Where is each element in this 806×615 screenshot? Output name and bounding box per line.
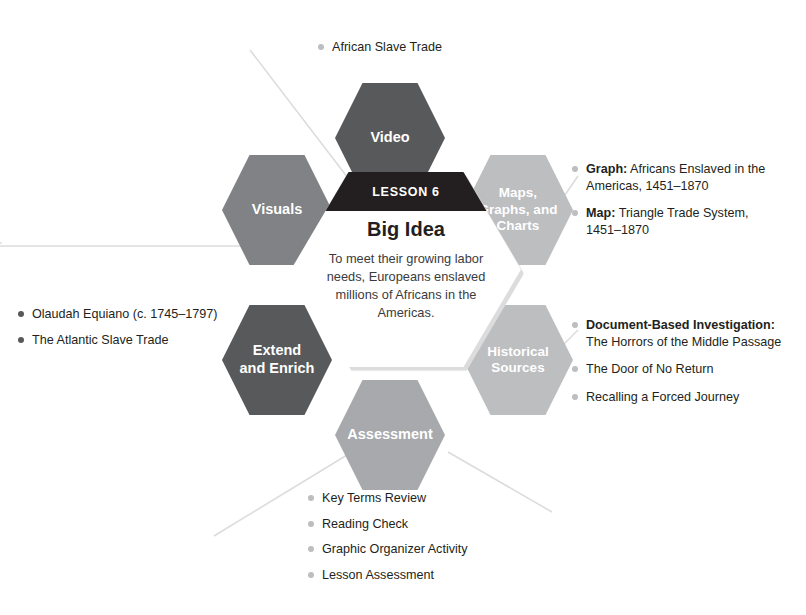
list-item-subtext: The Horrors of the Middle Passage bbox=[586, 334, 800, 351]
list-item-text: Africans Enslaved in the bbox=[627, 162, 765, 176]
list-item-text: Lesson Assessment bbox=[322, 568, 434, 582]
list-item[interactable]: Reading Check bbox=[308, 516, 548, 533]
big-idea-body: To meet their growing labor needs, Europ… bbox=[313, 250, 499, 323]
list-item-text: Triangle Trade System, bbox=[615, 206, 748, 220]
list-item-text: African Slave Trade bbox=[332, 40, 442, 54]
list-item-subtext: 1451–1870 bbox=[586, 222, 796, 239]
list-item-text: Recalling a Forced Journey bbox=[586, 390, 739, 404]
list-item-text: Olaudah Equiano (c. 1745–1797) bbox=[32, 307, 218, 321]
list-item[interactable]: Graphic Organizer Activity bbox=[308, 541, 548, 558]
list-historical-resources: Document-Based Investigation:The Horrors… bbox=[572, 317, 800, 417]
list-extend-resources: Olaudah Equiano (c. 1745–1797)The Atlant… bbox=[18, 306, 258, 357]
list-video-resources: African Slave Trade bbox=[318, 39, 548, 64]
lesson-banner: LESSON 6 bbox=[291, 172, 521, 211]
lesson-banner-label: LESSON 6 bbox=[372, 185, 439, 199]
big-idea-panel: LESSON 6 Big Idea To meet their growing … bbox=[291, 172, 521, 367]
list-item-strong: Graph: bbox=[586, 162, 627, 176]
list-item-text: The Door of No Return bbox=[586, 362, 713, 376]
list-item-text: Graphic Organizer Activity bbox=[322, 542, 468, 556]
list-maps-resources: Graph: Africans Enslaved in theAmericas,… bbox=[572, 161, 796, 250]
list-item-text: Key Terms Review bbox=[322, 491, 426, 505]
list-item-subtext: Americas, 1451–1870 bbox=[586, 178, 796, 195]
node-assessment[interactable]: Assessment bbox=[335, 380, 445, 490]
list-assessment-resources: Key Terms ReviewReading CheckGraphic Org… bbox=[308, 490, 548, 593]
node-assessment-label: Assessment bbox=[341, 426, 438, 444]
list-item-strong: Map: bbox=[586, 206, 615, 220]
list-item[interactable]: Recalling a Forced Journey bbox=[572, 389, 800, 406]
list-item[interactable]: Document-Based Investigation:The Horrors… bbox=[572, 317, 800, 350]
list-item-text: Reading Check bbox=[322, 517, 408, 531]
big-idea-title: Big Idea bbox=[291, 218, 521, 241]
list-item[interactable]: The Atlantic Slave Trade bbox=[18, 332, 258, 349]
list-item[interactable]: Graph: Africans Enslaved in theAmericas,… bbox=[572, 161, 796, 194]
list-item[interactable]: African Slave Trade bbox=[318, 39, 548, 56]
list-item[interactable]: Lesson Assessment bbox=[308, 567, 548, 584]
node-video-label: Video bbox=[364, 129, 415, 147]
list-item-strong: Document-Based Investigation: bbox=[586, 318, 775, 332]
lesson-overview-diagram: Video Visuals Maps, Graphs, and Charts E… bbox=[0, 0, 806, 615]
list-item[interactable]: Map: Triangle Trade System,1451–1870 bbox=[572, 205, 796, 238]
list-item[interactable]: Key Terms Review bbox=[308, 490, 548, 507]
list-item[interactable]: The Door of No Return bbox=[572, 361, 800, 378]
list-item[interactable]: Olaudah Equiano (c. 1745–1797) bbox=[18, 306, 258, 323]
list-item-text: The Atlantic Slave Trade bbox=[32, 333, 169, 347]
big-idea-hexagon: LESSON 6 Big Idea To meet their growing … bbox=[291, 172, 521, 367]
